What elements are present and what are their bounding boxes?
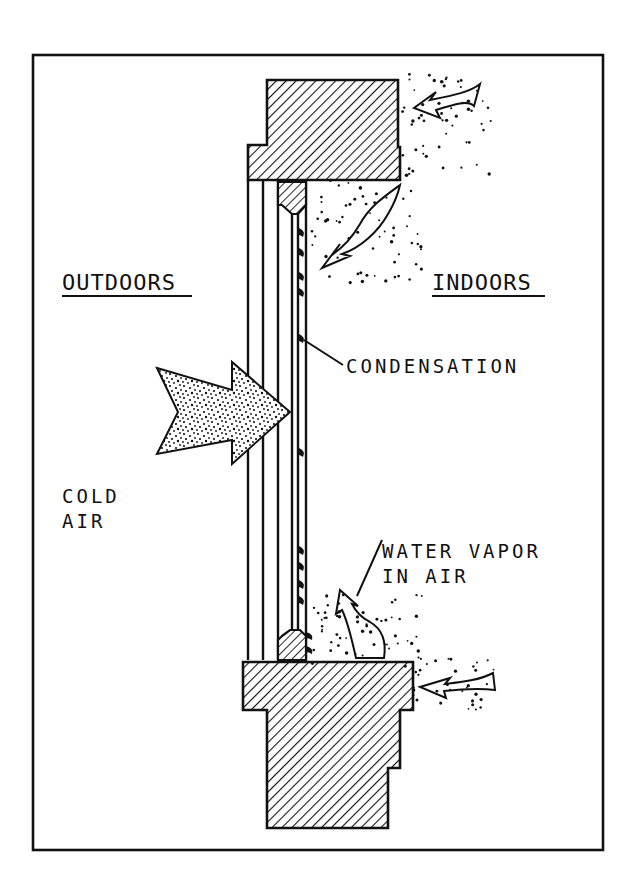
cold-air-arrow: [157, 362, 290, 464]
window-condensation-diagram: OUTDOORS INDOORS CONDENSATION COLD AIR W…: [0, 0, 636, 878]
label-outdoors: OUTDOORS: [62, 270, 192, 296]
head-jamb: [248, 80, 400, 180]
water-vapor-label-line2: IN AIR: [382, 565, 469, 587]
sash-stop-top: [278, 182, 306, 214]
condensation-leader: [304, 340, 343, 365]
water-vapor-label-line1: WATER VAPOR: [382, 540, 541, 562]
label-indoors: INDOORS: [432, 270, 545, 296]
sash-stop-bottom: [278, 630, 306, 660]
indoor-air-arrow-bottom-right: [420, 673, 495, 698]
indoor-air-arrow-down-left: [322, 185, 400, 268]
condensation-label: CONDENSATION: [346, 355, 519, 377]
cold-air-label-line1: COLD: [62, 485, 120, 507]
water-vapor-leader: [357, 540, 382, 596]
indoors-label: INDOORS: [432, 270, 532, 295]
indoor-air-arrow-up: [336, 590, 385, 658]
outdoors-label: OUTDOORS: [62, 270, 176, 295]
cold-air-label-line2: AIR: [62, 510, 105, 532]
sill: [243, 662, 413, 828]
